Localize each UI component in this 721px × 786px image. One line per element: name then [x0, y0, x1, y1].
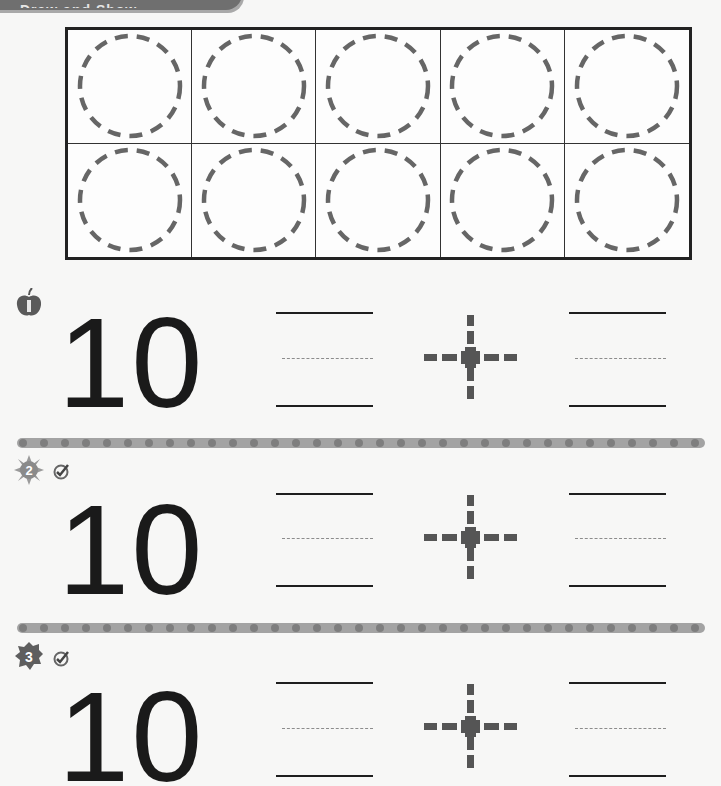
answer-right-field[interactable]	[569, 682, 666, 777]
ten-frame-cell[interactable]	[565, 30, 689, 144]
divider-dot	[691, 439, 699, 447]
dashed-circle-icon	[324, 32, 432, 140]
apple-icon	[14, 288, 44, 318]
answer-left-field[interactable]	[276, 682, 373, 777]
ten-frame	[65, 27, 692, 260]
divider-dot	[481, 439, 489, 447]
divider-dot	[334, 624, 342, 632]
divider-dot	[271, 439, 279, 447]
divider-dot	[61, 439, 69, 447]
divider-dot	[586, 439, 594, 447]
divider-dot	[82, 624, 90, 632]
divider-dot	[313, 624, 321, 632]
problem-3: 3 10	[0, 642, 721, 786]
divider-dot	[229, 439, 237, 447]
divider-dot	[40, 624, 48, 632]
divider-dot	[187, 439, 195, 447]
divider-dot	[523, 439, 531, 447]
sun-icon: 2	[14, 455, 44, 485]
divider-dot	[334, 439, 342, 447]
divider-dot	[460, 624, 468, 632]
big-number-ten: 10	[58, 299, 204, 427]
ten-frame-cell[interactable]	[68, 144, 192, 258]
dashed-circle-icon	[200, 146, 308, 254]
divider-dot	[292, 624, 300, 632]
divider-dot	[544, 624, 552, 632]
divider-dot	[418, 624, 426, 632]
divider-dot	[355, 439, 363, 447]
divider-dot	[19, 439, 27, 447]
divider-dot	[376, 624, 384, 632]
dashed-circle-icon	[76, 146, 184, 254]
plus-sign-icon	[424, 684, 518, 774]
plus-sign-icon	[424, 315, 518, 405]
dashed-circle-icon	[448, 32, 556, 140]
divider-dot	[250, 624, 258, 632]
divider-dot	[460, 439, 468, 447]
dashed-circle-icon	[448, 146, 556, 254]
divider-dot	[565, 624, 573, 632]
ten-frame-cell[interactable]	[68, 30, 192, 144]
divider-dot	[208, 439, 216, 447]
big-number-ten: 10	[58, 673, 204, 786]
divider-dot	[502, 624, 510, 632]
divider-dot	[166, 439, 174, 447]
divider-dot	[439, 624, 447, 632]
answer-left-field[interactable]	[276, 493, 373, 588]
dashed-circle-icon	[324, 146, 432, 254]
divider-dot	[607, 624, 615, 632]
divider-dot	[502, 439, 510, 447]
ten-frame-cell[interactable]	[316, 144, 440, 258]
divider-dot	[124, 439, 132, 447]
divider-dot	[19, 624, 27, 632]
divider-dot	[208, 624, 216, 632]
banner-label: Draw and Show	[20, 2, 137, 8]
divider-dot	[40, 439, 48, 447]
divider-dot	[187, 624, 195, 632]
answer-left-field[interactable]	[276, 312, 373, 407]
divider-dot	[313, 439, 321, 447]
problem-1: 10	[0, 285, 721, 435]
answer-right-field[interactable]	[569, 493, 666, 588]
divider-dot	[376, 439, 384, 447]
divider-dot	[670, 439, 678, 447]
leaf-icon: 3	[14, 641, 44, 671]
dashed-circle-icon	[76, 32, 184, 140]
ten-frame-cell[interactable]	[441, 144, 565, 258]
ten-frame-cell[interactable]	[192, 144, 316, 258]
divider-dot	[124, 624, 132, 632]
dashed-circle-icon	[200, 32, 308, 140]
dashed-circle-icon	[573, 146, 681, 254]
section-divider	[17, 438, 705, 448]
divider-dot	[145, 439, 153, 447]
divider-dot	[649, 439, 657, 447]
big-number-ten: 10	[58, 486, 204, 614]
divider-dot	[103, 624, 111, 632]
divider-dot	[103, 439, 111, 447]
divider-dot	[691, 624, 699, 632]
divider-dot	[586, 624, 594, 632]
ten-frame-cell[interactable]	[565, 144, 689, 258]
dashed-circle-icon	[573, 32, 681, 140]
plus-sign-icon	[424, 495, 518, 585]
divider-dot	[397, 439, 405, 447]
divider-dot	[418, 439, 426, 447]
ten-frame-cell[interactable]	[316, 30, 440, 144]
ten-frame-cell[interactable]	[192, 30, 316, 144]
answer-right-field[interactable]	[569, 312, 666, 407]
ten-frame-cell[interactable]	[441, 30, 565, 144]
divider-dot	[523, 624, 531, 632]
divider-dot	[229, 624, 237, 632]
svg-text:3: 3	[25, 649, 33, 665]
problem-2: 2 10	[0, 455, 721, 605]
divider-dot	[544, 439, 552, 447]
divider-dot	[145, 624, 153, 632]
divider-dot	[481, 624, 489, 632]
divider-dot	[355, 624, 363, 632]
divider-dot	[397, 624, 405, 632]
divider-dot	[61, 624, 69, 632]
divider-dot	[628, 439, 636, 447]
divider-dot	[670, 624, 678, 632]
divider-dot	[628, 624, 636, 632]
divider-dot	[82, 439, 90, 447]
